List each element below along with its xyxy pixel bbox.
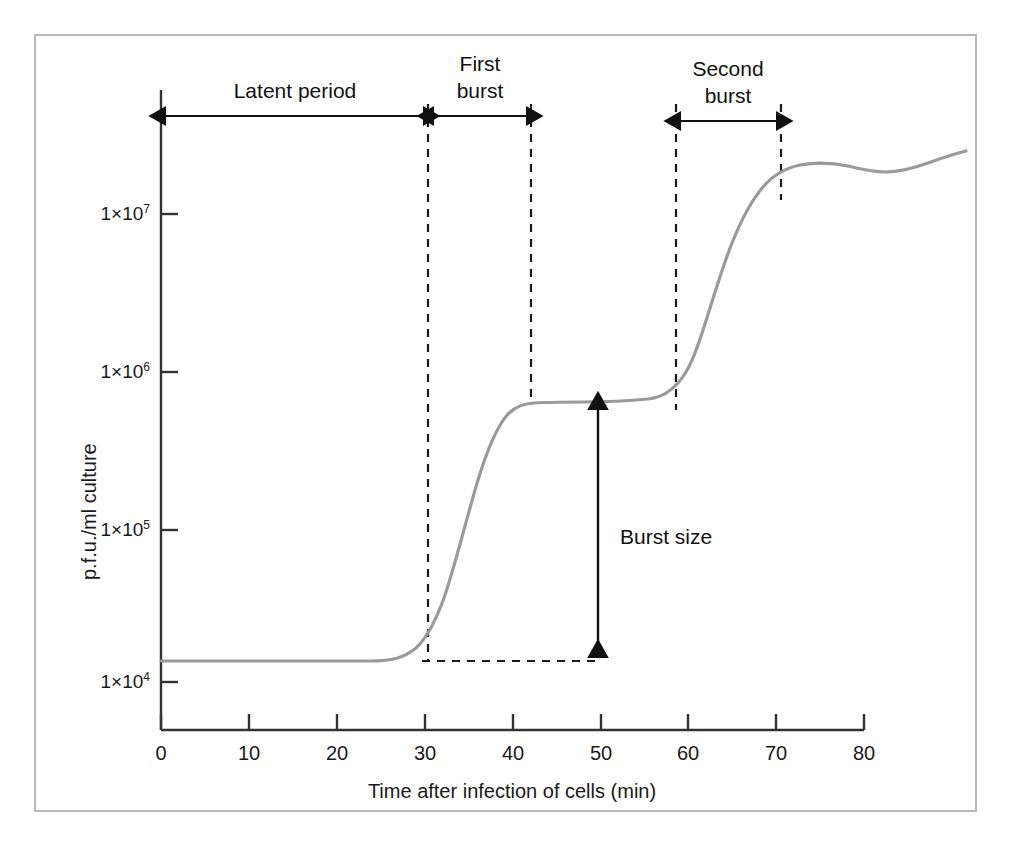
y-axis-title: p.f.u./ml culture [78, 443, 101, 580]
first-burst-label-line2: burst [440, 79, 520, 103]
figure-container: 1×107 1×106 1×105 1×104 0 10 20 30 40 50… [0, 0, 1011, 844]
x-axis-ticks [161, 714, 864, 730]
burst-size-label: Burst size [620, 525, 760, 549]
first-burst-label-line1: First [440, 52, 520, 76]
y-tick-label-1e4: 1×104 [68, 670, 150, 693]
x-axis-title: Time after infection of cells (min) [262, 780, 762, 803]
x-tick-label-10: 10 [229, 742, 269, 765]
x-tick-label-70: 70 [756, 742, 796, 765]
chart-plot-area [0, 0, 1011, 844]
second-burst-label-line2: burst [673, 84, 783, 108]
second-burst-label-line1: Second [673, 57, 783, 81]
y-tick-label-1e7: 1×107 [68, 202, 150, 225]
x-tick-label-30: 30 [405, 742, 445, 765]
latent-period-label: Latent period [195, 79, 395, 103]
x-tick-label-0: 0 [141, 742, 181, 765]
x-tick-label-20: 20 [317, 742, 357, 765]
x-tick-label-60: 60 [668, 742, 708, 765]
dashed-reference-lines [428, 104, 781, 662]
x-tick-label-50: 50 [581, 742, 621, 765]
y-tick-label-1e6: 1×106 [68, 360, 150, 383]
growth-curve [161, 151, 966, 661]
y-axis-ticks [161, 214, 178, 682]
x-tick-label-40: 40 [493, 742, 533, 765]
x-tick-label-80: 80 [844, 742, 884, 765]
